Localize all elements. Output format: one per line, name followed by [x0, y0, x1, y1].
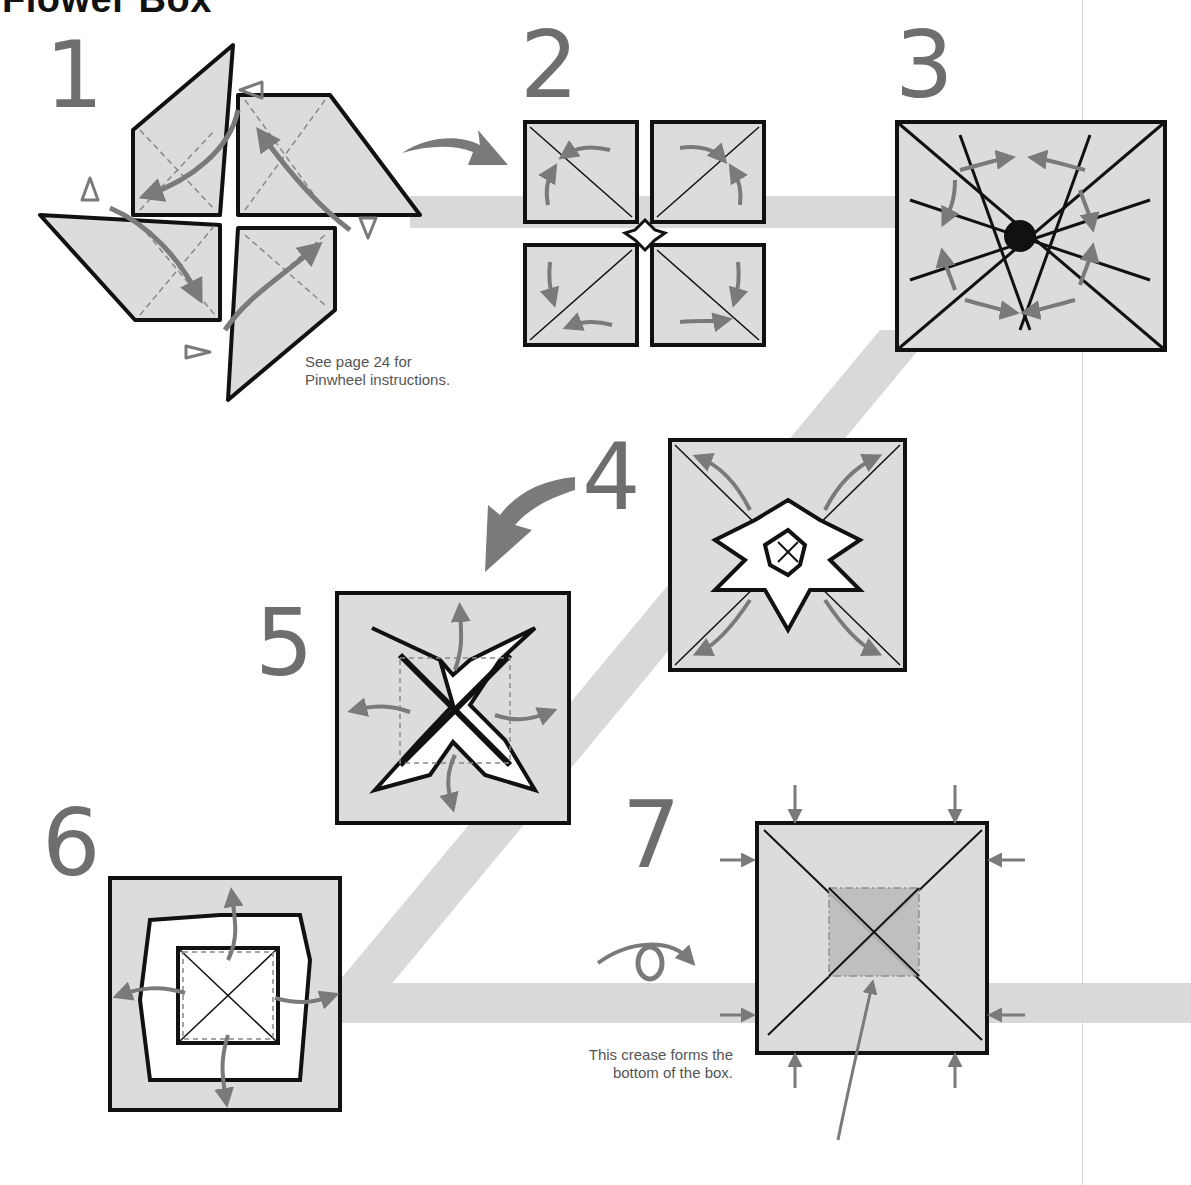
- step-4-diagram: [670, 440, 905, 670]
- step-6-diagram: [110, 878, 340, 1110]
- step-7-diagram: [720, 785, 1025, 1140]
- step-3-diagram: [897, 122, 1165, 350]
- diagrams: [0, 0, 1191, 1185]
- step-2-diagram: [525, 122, 764, 345]
- curved-arrow-icon: [402, 130, 508, 165]
- step-5-diagram: [337, 593, 569, 823]
- eye-turn-over-icon: [598, 945, 690, 979]
- step-1-diagram: [40, 45, 420, 400]
